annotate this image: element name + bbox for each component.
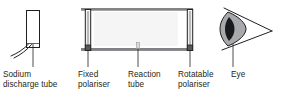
fixed-polariser-graphic <box>85 10 90 68</box>
fixed-polariser-mount <box>85 45 90 51</box>
rotatable-polariser-plate <box>189 11 191 49</box>
label-eye: Eye <box>231 70 261 80</box>
reaction-tube-marker <box>136 43 139 49</box>
polarimeter-diagram: Sodium discharge tube Fixed polariser Re… <box>0 0 283 102</box>
eye-graphic <box>220 8 272 67</box>
sodium-tube-body <box>27 11 40 48</box>
rotatable-polariser-mount <box>187 45 192 51</box>
label-rotatable-polariser: Rotatable polariser <box>178 70 226 90</box>
bench-bottom-rail <box>81 49 193 51</box>
label-reaction-tube: Reaction tube <box>128 70 172 90</box>
label-fixed-polariser: Fixed polariser <box>78 70 122 90</box>
label-sodium-discharge-tube: Sodium discharge tube <box>3 70 69 90</box>
reaction-tube-body <box>94 12 178 46</box>
bench-top-rail <box>81 9 193 11</box>
rotatable-polariser-graphic <box>187 10 192 68</box>
reaction-tube-graphic <box>94 12 178 67</box>
fixed-polariser-plate <box>87 11 89 49</box>
sodium-discharge-tube-graphic <box>11 11 40 68</box>
